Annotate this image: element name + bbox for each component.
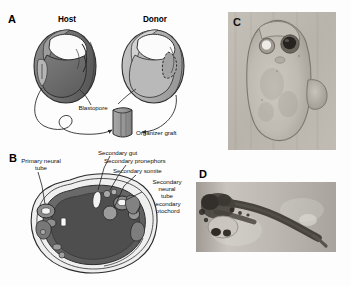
primary-neural-tube-line-2: tube	[6, 164, 76, 171]
panel-c-letter: C	[233, 16, 241, 28]
blastopore-label: Blastopore	[66, 104, 120, 111]
secondary-somite-label: Secondary somite	[113, 167, 162, 174]
blastopore-leader-line	[79, 89, 136, 105]
donor-embryo	[122, 30, 184, 103]
secondary-neural-tube-label: Secondary neural tube	[143, 178, 191, 199]
primary-neural-tube-label: Primary neural tube	[6, 157, 76, 171]
secondary-notochord-label: Secondary notochord	[140, 200, 192, 214]
host-embryo	[34, 30, 96, 103]
secondary-somite-structure	[103, 206, 117, 220]
organizer-graft-label: Organizer graft	[136, 129, 177, 136]
primary-neural-tube-structure	[37, 204, 55, 218]
secondary-neural-tube-line-3: tube	[143, 192, 191, 199]
secondary-notochord-line-1: Secondary	[140, 200, 192, 207]
host-label: Host	[40, 15, 94, 24]
secondary-notochord-line-2: notochord	[140, 207, 192, 214]
panel-b-section	[31, 174, 157, 273]
secondary-gut-label: Secondary gut	[98, 149, 137, 156]
panel-d-photo	[196, 182, 336, 252]
secondary-notochord-structure	[128, 208, 139, 219]
secondary-pronephros-label: Secondary pronephors	[104, 157, 166, 164]
primary-neural-tube-line-1: Primary neural	[6, 157, 76, 164]
organizer-graft-block	[113, 108, 132, 137]
panel-c-photo	[228, 12, 336, 150]
figure-container: A Host Donor Blastopore Organizer graft …	[0, 0, 351, 286]
secondary-pronephros-structure	[103, 190, 110, 197]
host-graft-path	[35, 88, 112, 134]
secondary-neural-tube-line-2: neural	[143, 185, 191, 192]
panel-c-embryo-svg	[228, 12, 336, 150]
donor-label: Donor	[127, 15, 183, 24]
secondary-gut-structure	[93, 192, 101, 209]
panel-a-letter: A	[8, 13, 16, 25]
panel-d-letter: D	[199, 168, 207, 180]
donor-graft-arrow	[142, 95, 176, 132]
panel-d-embryo-svg	[196, 182, 336, 252]
secondary-neural-tube-structure	[114, 196, 131, 210]
secondary-neural-tube-line-1: Secondary	[143, 178, 191, 185]
